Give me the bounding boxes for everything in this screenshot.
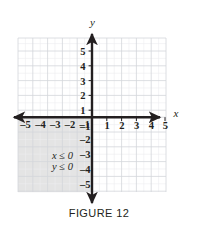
x-tick-label-2: 2 — [119, 120, 124, 131]
x-tick-label-1: 1 — [104, 120, 109, 131]
y-tick-label-2: 2 — [80, 90, 85, 101]
figure-12: 5 4 3 2 1 –1 –2 –3 –4 –5 –5 –4 –3 –2 –1 … — [0, 0, 198, 231]
annotation-inequality-x: x ≤ 0 — [51, 150, 74, 161]
x-tick-label-3: 3 — [134, 120, 139, 131]
x-tick-label-neg-1: –1 — [79, 119, 91, 130]
x-tick-label-4: 4 — [149, 120, 155, 131]
x-axis-label: x — [173, 107, 179, 119]
y-tick-label-neg-3: –3 — [79, 149, 91, 160]
x-tick-label-neg-2: –2 — [64, 119, 76, 130]
y-tick-label-neg-2: –2 — [79, 134, 91, 145]
annotation-inequality-y: y ≤ 0 — [51, 161, 74, 172]
coordinate-plane: 5 4 3 2 1 –1 –2 –3 –4 –5 –5 –4 –3 –2 –1 … — [0, 0, 198, 231]
y-tick-label-5: 5 — [80, 46, 85, 57]
y-axis-label: y — [89, 16, 95, 28]
figure-caption: FIGURE 12 — [0, 207, 198, 219]
y-tick-label-neg-5: –5 — [79, 179, 91, 190]
y-tick-label-3: 3 — [80, 76, 85, 87]
y-tick-label-4: 4 — [80, 61, 86, 72]
x-tick-label-5: 5 — [163, 120, 168, 131]
y-tick-label-neg-4: –4 — [79, 164, 91, 175]
y-tick-label-1: 1 — [80, 105, 85, 116]
x-tick-label-neg-4: –4 — [34, 119, 46, 130]
x-tick-label-neg-5: –5 — [19, 119, 31, 130]
x-tick-label-neg-3: –3 — [49, 119, 61, 130]
